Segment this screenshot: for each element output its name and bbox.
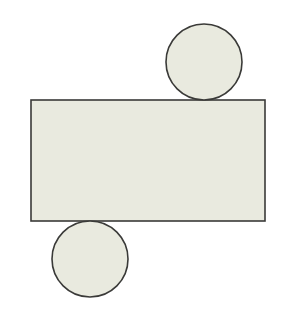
cylinder-net-diagram <box>0 0 289 323</box>
bottom-base-circle <box>52 221 128 297</box>
top-base-circle <box>166 24 242 100</box>
lateral-surface-rectangle <box>31 100 265 221</box>
diagram-svg <box>0 0 289 323</box>
